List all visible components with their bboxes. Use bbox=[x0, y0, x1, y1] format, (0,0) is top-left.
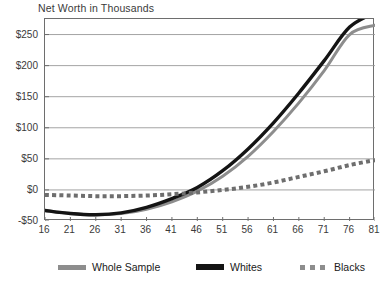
series-line-whole-sample bbox=[45, 25, 375, 215]
plot-area bbox=[44, 18, 374, 220]
x-tick-label: 61 bbox=[267, 224, 278, 235]
x-axis-tick-labels: 1621263136414651566166717681 bbox=[0, 224, 384, 240]
x-tick-label: 76 bbox=[343, 224, 354, 235]
x-tick-label: 26 bbox=[89, 224, 100, 235]
x-tick-label: 31 bbox=[115, 224, 126, 235]
y-tick-label: $200 bbox=[16, 59, 38, 70]
chart-plot-svg bbox=[45, 19, 375, 221]
x-tick-label: 36 bbox=[140, 224, 151, 235]
y-tick-label: $250 bbox=[16, 28, 38, 39]
x-tick-label: 21 bbox=[64, 224, 75, 235]
legend-label: Blacks bbox=[334, 262, 365, 273]
x-tick-label: 16 bbox=[38, 224, 49, 235]
x-tick-label: 71 bbox=[318, 224, 329, 235]
legend-label: Whole Sample bbox=[92, 262, 160, 273]
legend-swatch-icon bbox=[58, 265, 86, 270]
y-tick-label: $100 bbox=[16, 121, 38, 132]
chart-title: Net Worth in Thousands bbox=[38, 2, 154, 14]
x-tick-label: 56 bbox=[242, 224, 253, 235]
legend-swatch-icon bbox=[300, 265, 328, 270]
y-axis-tick-labels: -$50$0$50$100$150$200$250 bbox=[0, 0, 44, 240]
x-tick-label: 81 bbox=[368, 224, 379, 235]
y-tick-label: $150 bbox=[16, 90, 38, 101]
legend-label: Whites bbox=[230, 262, 262, 273]
chart-legend: Whole SampleWhitesBlacks bbox=[0, 262, 384, 280]
x-tick-label: 51 bbox=[216, 224, 227, 235]
legend-swatch-icon bbox=[196, 264, 224, 270]
y-tick-label: $50 bbox=[21, 152, 38, 163]
x-tick-label: 46 bbox=[191, 224, 202, 235]
legend-item-whites[interactable]: Whites bbox=[196, 262, 262, 273]
chart-container: Net Worth in Thousands -$50$0$50$100$150… bbox=[0, 0, 384, 287]
legend-item-blacks[interactable]: Blacks bbox=[300, 262, 365, 273]
x-tick-label: 41 bbox=[165, 224, 176, 235]
y-tick-label: $0 bbox=[27, 183, 38, 194]
x-tick-label: 66 bbox=[292, 224, 303, 235]
legend-item-whole-sample[interactable]: Whole Sample bbox=[58, 262, 160, 273]
